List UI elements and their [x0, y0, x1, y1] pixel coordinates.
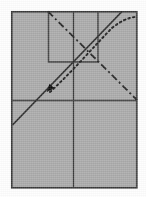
figure-canvas [0, 0, 146, 197]
figure-svg [0, 0, 146, 197]
outer-rectangle [12, 12, 137, 188]
